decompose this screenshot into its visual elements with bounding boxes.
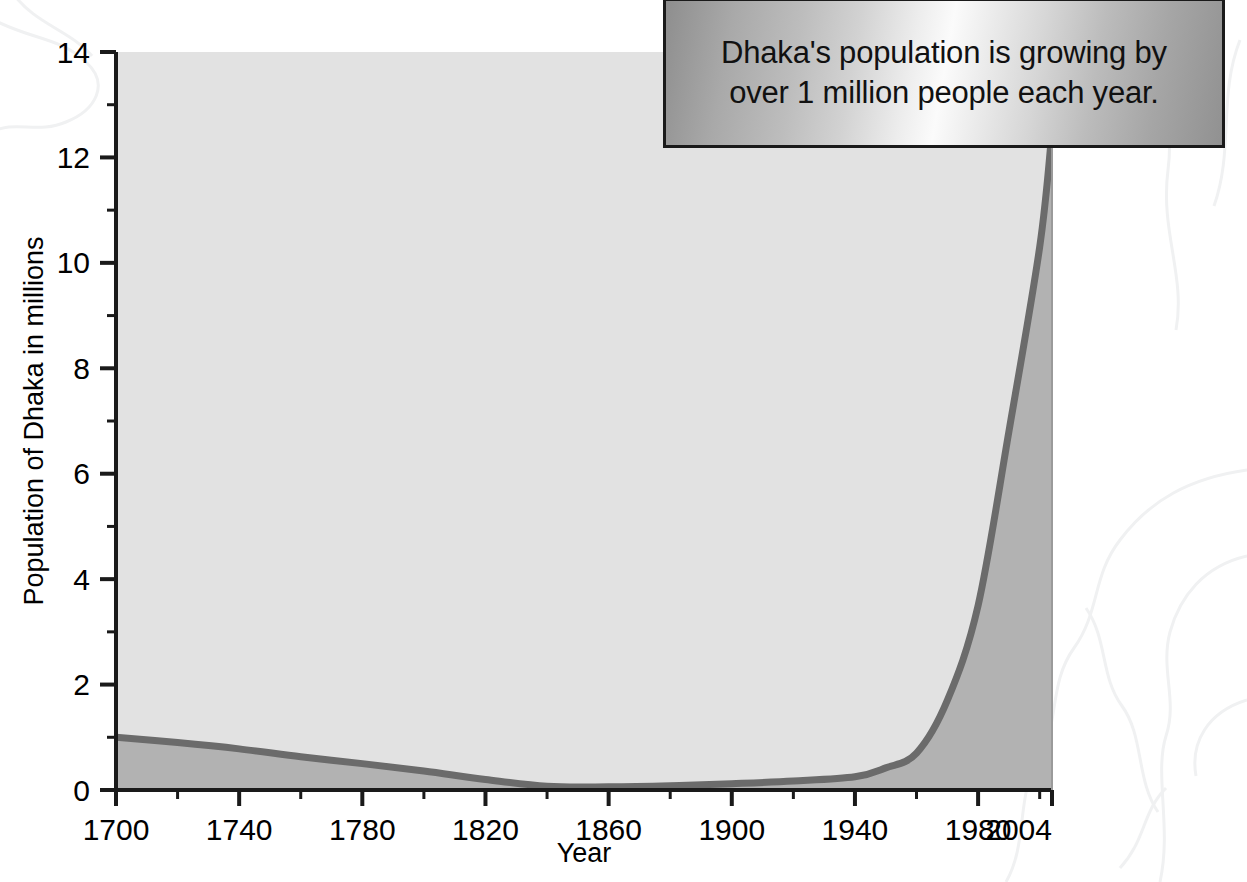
callout-box: Dhaka's population is growing by over 1 … — [663, 0, 1225, 148]
x-tick-label: 1900 — [698, 813, 765, 846]
y-tick-label: 2 — [73, 668, 90, 701]
chart-page: 02468101214 1700174017801820186019001940… — [0, 0, 1247, 882]
y-axis-tick-labels: 02468101214 — [57, 36, 90, 807]
y-tick-label: 0 — [73, 774, 90, 807]
y-tick-label: 12 — [57, 141, 90, 174]
x-axis-title: Year — [557, 838, 612, 868]
callout-text: Dhaka's population is growing by over 1 … — [707, 33, 1181, 114]
callout-line-1: Dhaka's population is growing by — [721, 33, 1167, 73]
y-tick-label: 8 — [73, 352, 90, 385]
y-tick-label: 14 — [57, 36, 90, 69]
x-tick-label: 2004 — [985, 813, 1052, 846]
x-tick-label: 1780 — [329, 813, 396, 846]
plot-background — [116, 52, 1052, 790]
x-tick-label: 1820 — [452, 813, 519, 846]
y-tick-label: 10 — [57, 246, 90, 279]
x-tick-label: 1940 — [822, 813, 889, 846]
x-tick-label: 1740 — [206, 813, 273, 846]
y-tick-label: 6 — [73, 457, 90, 490]
x-tick-label: 1700 — [83, 813, 150, 846]
y-tick-label: 4 — [73, 563, 90, 596]
x-axis-ticks — [116, 790, 1052, 806]
y-axis-title: Population of Dhaka in millions — [19, 236, 49, 605]
callout-line-2: over 1 million people each year. — [721, 73, 1167, 113]
